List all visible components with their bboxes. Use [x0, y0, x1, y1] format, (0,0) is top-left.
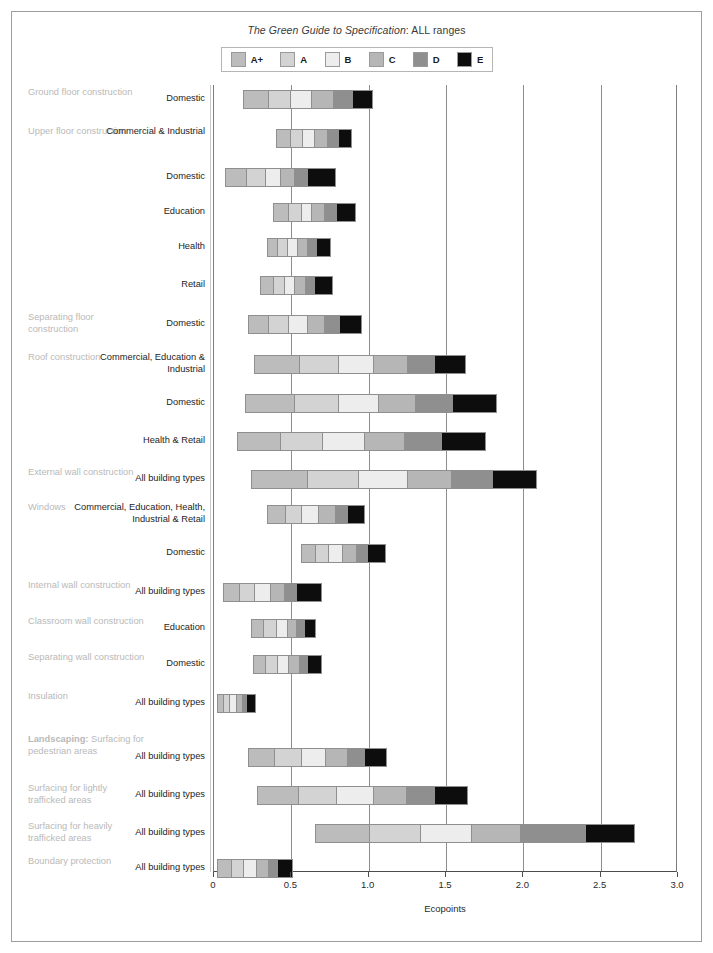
bar-segment-b [288, 315, 307, 334]
bar-segment-d [356, 544, 367, 563]
stacked-bar [254, 355, 466, 374]
bar-segment-aplus [237, 432, 280, 451]
stacked-bar [251, 470, 537, 489]
bar-segment-b [336, 786, 373, 805]
bar-segment-d [305, 276, 314, 295]
legend-item-c: C [369, 52, 396, 67]
subcategory-label: All building types [60, 827, 205, 839]
bar-segment-a [298, 786, 337, 805]
chart-title: The Green Guide to Specification: ALL ra… [0, 24, 713, 36]
x-axis-tick [600, 872, 601, 877]
x-axis-tick [445, 872, 446, 877]
bar-segment-b [276, 619, 287, 638]
bar-segment-a [288, 203, 300, 222]
legend-label: A [300, 54, 307, 65]
x-axis-tick-label: 3.0 [670, 879, 683, 890]
x-axis-tick [368, 872, 369, 877]
legend-swatch-icon [231, 52, 246, 67]
bar-segment-c [314, 129, 326, 148]
bar-segment-a [299, 355, 338, 374]
bar-segment-c [270, 583, 284, 602]
stacked-bar [248, 315, 362, 334]
legend-label: B [345, 54, 352, 65]
bar-segment-e [338, 129, 352, 148]
bar-segment-aplus [267, 505, 286, 524]
bar-segment-e [336, 203, 356, 222]
bar-segment-b [284, 276, 295, 295]
legend-label: C [389, 54, 396, 65]
bar-segment-a [285, 505, 300, 524]
bar-segment-a [239, 583, 254, 602]
x-axis-tick [677, 872, 678, 877]
bar-segment-aplus [267, 238, 278, 257]
bar-segment-a [246, 168, 265, 187]
bar-segment-d [407, 355, 433, 374]
stacked-bar [243, 90, 373, 109]
subcategory-label: Domestic [60, 547, 205, 559]
bar-segment-d [451, 470, 493, 489]
bar-segment-d [307, 238, 316, 257]
bar-segment-c [378, 394, 415, 413]
stacked-bar [248, 748, 387, 767]
stacked-bar [253, 655, 323, 674]
bar-segment-e [585, 824, 634, 843]
legend-item-b: B [325, 52, 352, 67]
bar-segment-a [268, 90, 290, 109]
label-plot-divider [210, 85, 211, 872]
bar-segment-d [294, 168, 306, 187]
subcategory-label: All building types [60, 473, 205, 485]
chart-page: The Green Guide to Specification: ALL ra… [0, 0, 713, 953]
bar-segment-b [287, 238, 298, 257]
legend-swatch-icon [325, 52, 340, 67]
bar-segment-b [328, 544, 342, 563]
stacked-bar [223, 583, 322, 602]
subcategory-label: Commercial, Education, Health, Industria… [60, 502, 205, 525]
subcategory-label: Education [60, 206, 205, 218]
bar-segment-b [277, 655, 288, 674]
gridline [601, 85, 602, 871]
bar-segment-c [288, 655, 299, 674]
bar-segment-c [373, 786, 405, 805]
bar-segment-e [347, 505, 366, 524]
stacked-bar [260, 276, 333, 295]
bar-segment-c [297, 238, 306, 257]
x-axis-tick-label: 1.0 [361, 879, 374, 890]
bar-segment-b [322, 432, 364, 451]
bar-segment-b [301, 203, 312, 222]
stacked-bar [257, 786, 467, 805]
subcategory-label: Commercial & Industrial [60, 126, 205, 138]
bar-segment-b [338, 394, 378, 413]
bar-segment-e [364, 748, 387, 767]
bar-segment-c [407, 470, 450, 489]
legend-label: A+ [251, 54, 263, 65]
bar-segment-c [471, 824, 520, 843]
bar-segment-b [301, 505, 318, 524]
subcategory-label: Domestic [60, 93, 205, 105]
stacked-bar [276, 129, 352, 148]
bar-segment-d [520, 824, 585, 843]
x-axis-tick [290, 872, 291, 877]
subcategory-label: All building types [60, 789, 205, 801]
bar-segment-d [347, 748, 364, 767]
bar-segment-e [314, 276, 333, 295]
legend-swatch-icon [413, 52, 428, 67]
bar-segment-e [434, 355, 466, 374]
legend-swatch-icon [369, 52, 384, 67]
legend-item-aplus: A+ [231, 52, 263, 67]
bar-segment-aplus [251, 619, 263, 638]
stacked-bar [301, 544, 386, 563]
bar-segment-b [338, 355, 374, 374]
legend-item-e: E [457, 52, 483, 67]
bar-segment-aplus [245, 394, 294, 413]
legend-label: E [477, 54, 483, 65]
bar-segment-d [327, 129, 338, 148]
bar-segment-aplus [301, 544, 315, 563]
bar-segment-aplus [248, 315, 268, 334]
bar-segment-e [492, 470, 537, 489]
subcategory-label: All building types [60, 586, 205, 598]
bar-segment-e [441, 432, 486, 451]
bar-segment-a [307, 470, 358, 489]
subcategory-label: Education [60, 622, 205, 634]
bar-segment-e [304, 619, 316, 638]
stacked-bar [245, 394, 497, 413]
